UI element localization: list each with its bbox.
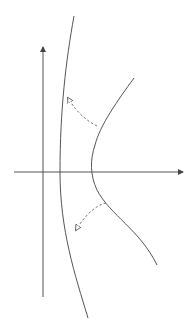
dashed-arrow-lower (76, 203, 106, 230)
axes (14, 47, 183, 297)
dashed-arrow-upper (68, 98, 97, 126)
flow-arrows (68, 98, 106, 230)
phase-diagram (0, 0, 190, 319)
curves (60, 16, 157, 318)
left-curve (60, 16, 88, 318)
